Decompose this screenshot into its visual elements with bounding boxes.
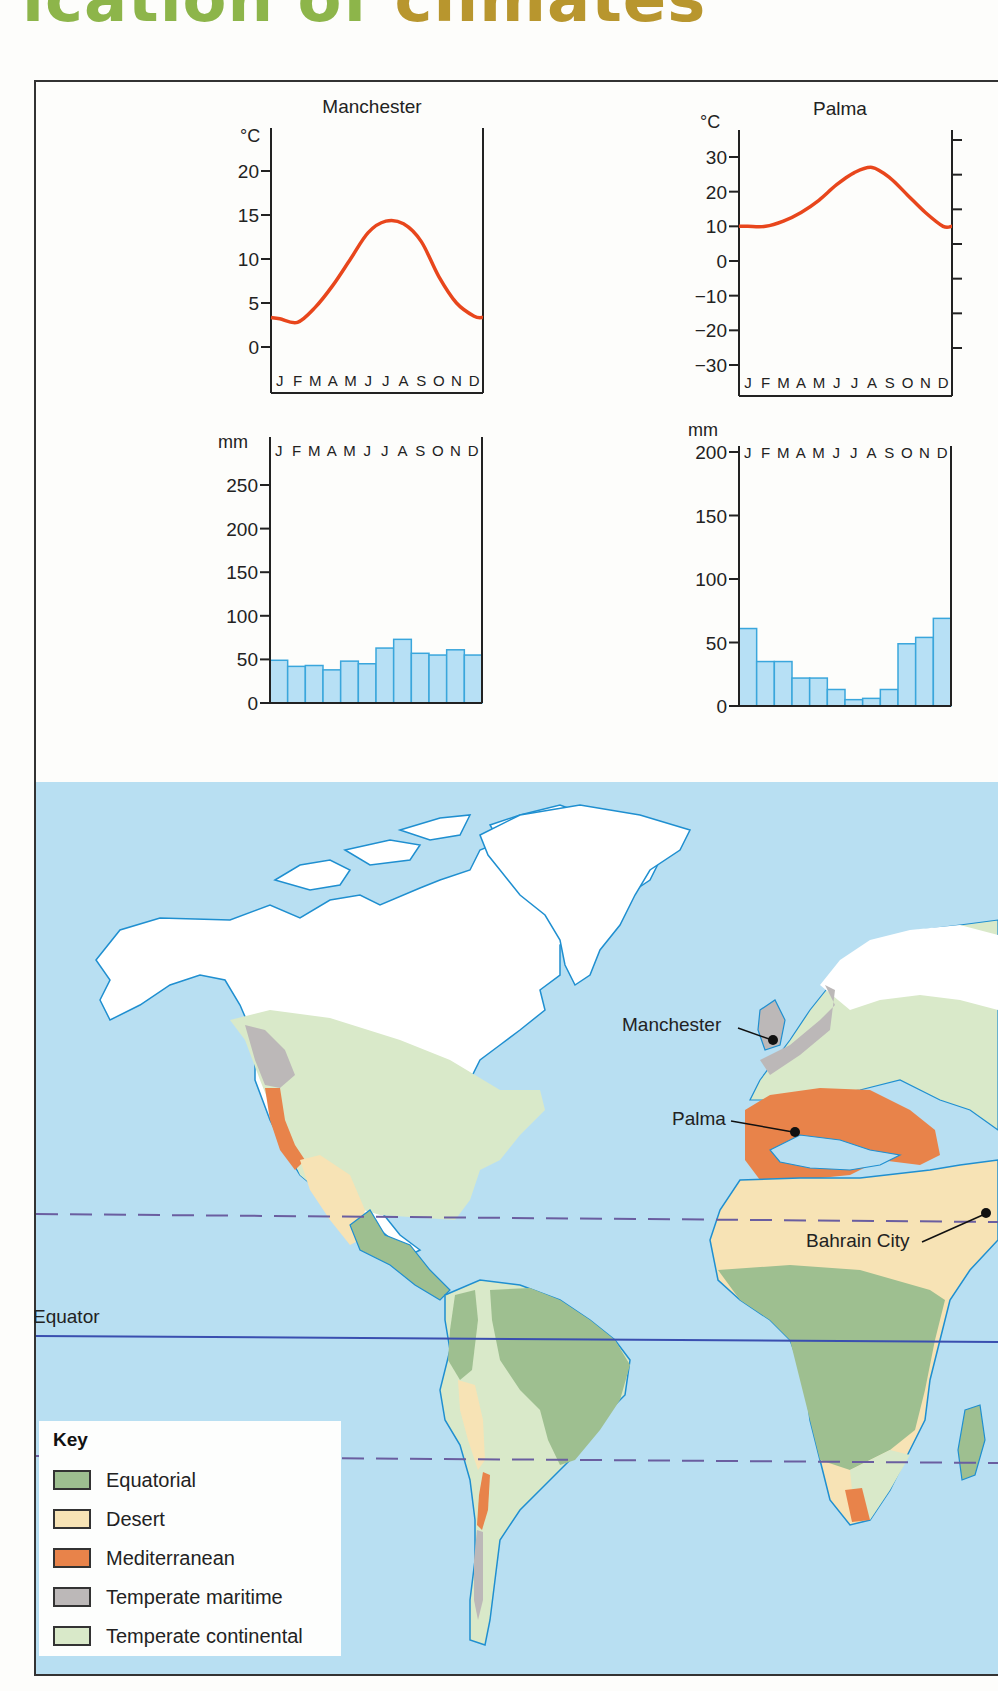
rainfall-bar [394, 639, 412, 703]
key-item-temperate-maritime: Temperate maritime [53, 1584, 283, 1610]
month-label: F [761, 444, 770, 461]
y-tick-label: 0 [716, 696, 727, 717]
key-item-desert: Desert [53, 1506, 165, 1532]
month-label: S [416, 372, 426, 389]
month-label: J [833, 374, 841, 391]
y-tick-label: 250 [226, 475, 258, 496]
month-label: J [364, 372, 372, 389]
month-label: O [432, 442, 444, 459]
key-item-mediterranean: Mediterranean [53, 1545, 235, 1571]
y-axis-unit: °C [240, 126, 260, 146]
month-label: M [777, 444, 790, 461]
month-label: M [309, 372, 322, 389]
y-axis-unit: mm [218, 432, 248, 452]
month-label: M [812, 444, 825, 461]
chart-title: Manchester [322, 96, 422, 117]
rainfall-bar [270, 660, 288, 703]
rainfall-bar [376, 648, 394, 703]
y-tick-label: 15 [238, 205, 259, 226]
y-tick-label: 10 [706, 216, 727, 237]
y-axis-unit: °C [700, 112, 720, 132]
rainfall-bar [792, 678, 810, 706]
bahrain-marker [981, 1208, 991, 1218]
rainfall-bar [774, 662, 792, 706]
month-label: F [292, 442, 301, 459]
palma-marker [790, 1127, 800, 1137]
y-tick-label: 20 [706, 182, 727, 203]
y-tick-label: −10 [695, 286, 727, 307]
palma-map-label: Palma [672, 1108, 726, 1130]
mediterranean-swatch [53, 1548, 91, 1568]
month-label: S [415, 442, 425, 459]
rainfall-bar [358, 664, 376, 703]
month-label: J [744, 444, 752, 461]
y-tick-label: 0 [248, 337, 259, 358]
y-tick-label: 150 [226, 562, 258, 583]
month-label: N [450, 442, 461, 459]
arctic-islands [275, 815, 470, 890]
key-item-equatorial: Equatorial [53, 1467, 196, 1493]
y-tick-label: 100 [695, 569, 727, 590]
rainfall-bar [305, 666, 323, 703]
month-label: A [866, 444, 876, 461]
manchester-map-label: Manchester [622, 1014, 721, 1036]
month-label: A [867, 374, 877, 391]
key-label: Temperate maritime [106, 1586, 283, 1609]
rainfall-bar [827, 689, 845, 706]
rainfall-bar [429, 655, 447, 703]
month-label: J [851, 374, 859, 391]
temperature-line [271, 220, 483, 322]
month-label: J [832, 444, 840, 461]
rainfall-bar [341, 661, 359, 703]
month-label: O [433, 372, 445, 389]
temperature-line [739, 167, 952, 227]
month-label: M [344, 372, 357, 389]
equatorial-swatch [53, 1470, 91, 1490]
month-label: A [327, 442, 337, 459]
temperate-continental-swatch [53, 1626, 91, 1646]
month-label: M [308, 442, 321, 459]
month-label: A [796, 444, 806, 461]
key-label: Mediterranean [106, 1547, 235, 1570]
madagascar [958, 1405, 985, 1480]
y-tick-label: 20 [238, 161, 259, 182]
palma-rainfall-chart: mm050100150200JFMAMJJASOND [688, 420, 951, 717]
y-axis-unit: mm [688, 420, 718, 440]
month-label: A [397, 442, 407, 459]
month-label: S [884, 444, 894, 461]
desert-swatch [53, 1509, 91, 1529]
rainfall-bar [880, 689, 898, 706]
month-label: A [398, 372, 408, 389]
key-item-temperate-continental: Temperate continental [53, 1623, 303, 1649]
y-tick-label: 100 [226, 606, 258, 627]
climate-graphs: Manchester°C05101520JFMAMJJASOND Palma°C… [0, 0, 998, 782]
y-tick-label: 0 [716, 251, 727, 272]
month-label: J [363, 442, 371, 459]
equator-label: Equator [33, 1306, 100, 1328]
rainfall-bar [739, 629, 757, 706]
rainfall-bar [898, 644, 916, 706]
palma-temperature-chart: Palma°C3020100−10−20−30JFMAMJJASOND [695, 98, 962, 396]
y-tick-label: 5 [248, 293, 259, 314]
y-tick-label: 50 [237, 649, 258, 670]
key-label: Temperate continental [106, 1625, 303, 1648]
bahrain-city-map-label: Bahrain City [806, 1230, 910, 1252]
month-label: O [901, 444, 913, 461]
y-tick-label: 30 [706, 147, 727, 168]
month-label: J [275, 442, 283, 459]
month-label: N [919, 444, 930, 461]
month-label: O [902, 374, 914, 391]
key-label: Equatorial [106, 1469, 196, 1492]
map-key: Key Equatorial Desert Mediterranean Temp… [39, 1421, 341, 1656]
manchester-marker [768, 1035, 778, 1045]
y-tick-label: 200 [226, 519, 258, 540]
month-label: M [813, 374, 826, 391]
month-label: J [276, 372, 284, 389]
month-label: A [328, 372, 338, 389]
rainfall-bar [863, 698, 881, 706]
temperate-maritime-swatch [53, 1587, 91, 1607]
y-tick-label: −30 [695, 355, 727, 376]
month-label: S [885, 374, 895, 391]
month-label: D [468, 442, 479, 459]
rainfall-bar [757, 662, 775, 706]
